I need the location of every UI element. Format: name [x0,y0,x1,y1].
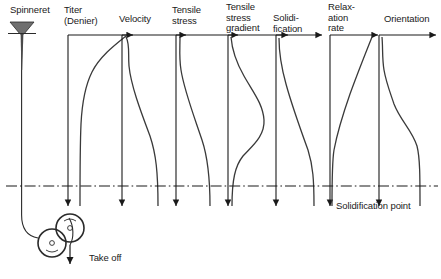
godet-roller-lower-hub [50,241,55,246]
filament-from-godet [69,218,73,245]
godet-roller-lower [38,229,66,257]
label-spinneret: Spinneret [10,5,50,16]
label-relaxation-rate: Relax- ation rate [328,2,355,34]
annotation-solidification-point: Solidification point [336,201,411,212]
panel-tensile-stress-gradient [228,35,288,206]
panel-solidification [276,35,322,206]
spinneret-funnel-icon [10,22,34,34]
godet-roller-upper [56,214,84,242]
label-tensile-stress: Tensile stress [172,5,201,26]
annotation-take-off: Take off [89,253,121,264]
melt-spinning-diagram: Spinneret Titer (Denier) Velocity Tensil… [0,0,441,279]
spinneret-group [8,22,84,264]
label-orientation: Orientation [384,14,429,25]
panel-orientation [379,35,436,206]
filament-taper [21,34,24,70]
godet-roller-upper-hub [68,226,73,231]
tensile-stress-curve [180,37,210,206]
godet-roller-lower-mark [46,250,58,252]
label-tensile-stress-gradient: Tensile stress gradient [226,2,260,34]
solidification-curve [279,38,314,206]
filament-to-godet [22,215,38,238]
panel-relaxation-rate [330,35,378,206]
velocity-curve [126,37,158,206]
label-titer: Titer (Denier) [64,5,98,26]
label-solidification: Solidi- fication [273,13,302,34]
panel-tensile-stress [176,35,238,206]
panel-titer [68,35,133,206]
tensile-stress-gradient-curve [231,37,264,206]
relaxation-rate-curve [332,37,372,206]
diagram-canvas [0,0,441,279]
label-velocity: Velocity [119,14,151,25]
titer-curve [80,36,126,206]
orientation-curve [382,37,420,206]
